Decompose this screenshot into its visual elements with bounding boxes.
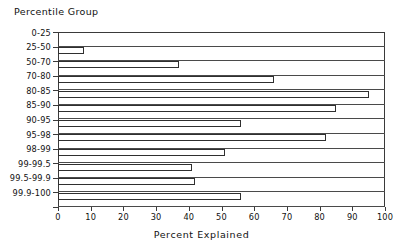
bar <box>58 178 195 185</box>
bar <box>58 149 225 156</box>
x-tick-mark <box>222 207 223 211</box>
y-tick-label: 80-85 <box>26 86 51 96</box>
y-tick-label: 85-90 <box>26 100 51 110</box>
percent-explained-bar-chart: Percentile Group 0-2525-5050-7070-8080-8… <box>0 0 403 252</box>
x-tick-mark <box>352 207 353 211</box>
x-tick-label: 40 <box>183 212 194 222</box>
bar <box>58 76 274 83</box>
bar-row <box>58 178 385 193</box>
x-tick-label: 70 <box>281 212 292 222</box>
bar-row <box>58 47 385 62</box>
bar <box>58 47 84 54</box>
bar-row <box>58 90 385 105</box>
x-tick-mark <box>91 207 92 211</box>
x-tick-label: 80 <box>314 212 325 222</box>
x-tick-label: 60 <box>249 212 260 222</box>
bar <box>58 193 241 200</box>
x-tick-mark <box>58 207 59 211</box>
y-tick-label: 98-99 <box>26 144 51 154</box>
x-tick-mark <box>254 207 255 211</box>
y-tick-label: 70-80 <box>26 71 51 81</box>
y-axis-ticks: 0-2525-5050-7070-8080-8585-9090-9595-989… <box>0 32 58 207</box>
y-tick-label: 0-25 <box>32 28 51 38</box>
bar-row <box>58 163 385 178</box>
x-tick-mark <box>320 207 321 211</box>
bar-row <box>58 32 385 47</box>
bar <box>58 164 192 171</box>
y-tick-label: 99.5-99.9 <box>10 173 51 183</box>
y-tick-label: 99-99.5 <box>18 159 51 169</box>
x-tick-label: 30 <box>151 212 162 222</box>
bars-layer <box>58 32 385 207</box>
bar-row <box>58 76 385 91</box>
bar <box>58 61 179 68</box>
x-tick-label: 0 <box>55 212 60 222</box>
bar-row <box>58 120 385 135</box>
y-axis-title: Percentile Group <box>14 6 98 17</box>
x-tick-mark <box>287 207 288 211</box>
x-tick-label: 90 <box>347 212 358 222</box>
bar-row <box>58 149 385 164</box>
x-tick-mark <box>156 207 157 211</box>
x-tick-mark <box>385 207 386 211</box>
x-tick-mark <box>123 207 124 211</box>
x-tick-label: 20 <box>118 212 129 222</box>
bar <box>58 134 326 141</box>
bar <box>58 91 369 98</box>
x-tick-mark <box>189 207 190 211</box>
bar <box>58 120 241 127</box>
x-axis-ticks: 0102030405060708090100 <box>0 207 403 227</box>
bar <box>58 105 336 112</box>
bar-row <box>58 105 385 120</box>
bar-row <box>58 61 385 76</box>
y-tick-label: 90-95 <box>26 115 51 125</box>
bar-row <box>58 134 385 149</box>
y-tick-label: 50-70 <box>26 57 51 67</box>
x-tick-label: 100 <box>377 212 393 222</box>
y-tick-label: 95-98 <box>26 130 51 140</box>
x-axis-title: Percent Explained <box>0 229 403 240</box>
x-tick-label: 50 <box>216 212 227 222</box>
bar-row <box>58 192 385 207</box>
y-tick-label: 99.9-100 <box>13 188 51 198</box>
x-tick-label: 10 <box>85 212 96 222</box>
y-tick-label: 25-50 <box>26 42 51 52</box>
